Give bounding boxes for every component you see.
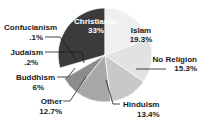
label-judaism-name: Judaism xyxy=(11,48,43,57)
label-buddhism-name: Buddhism xyxy=(16,73,55,82)
label-islam-value: 19.3% xyxy=(130,35,153,44)
label-christianity-name: Christianity xyxy=(74,17,119,26)
label-no-religion-name: No Religion xyxy=(153,55,198,64)
label-islam-name: Islam xyxy=(131,26,151,35)
pie-chart-svg: Christianity 33% Islam 19.3% No Religion… xyxy=(0,0,200,126)
label-hinduism-name: Hinduism xyxy=(123,100,159,109)
pie-chart-figure: Christianity 33% Islam 19.3% No Religion… xyxy=(0,0,200,126)
label-no-religion-value: 15.3% xyxy=(174,64,197,73)
label-judaism-value: .2% xyxy=(24,58,38,67)
label-other-name: Other xyxy=(41,97,62,106)
label-buddhism-value: 6% xyxy=(32,83,44,92)
label-confucianism-name: Confucianism xyxy=(4,23,57,32)
label-other-value: 12.7% xyxy=(39,107,62,116)
label-confucianism-value: .1% xyxy=(29,33,43,42)
label-hinduism-value: 13.4% xyxy=(137,110,160,119)
label-christianity-value: 33% xyxy=(88,26,104,35)
